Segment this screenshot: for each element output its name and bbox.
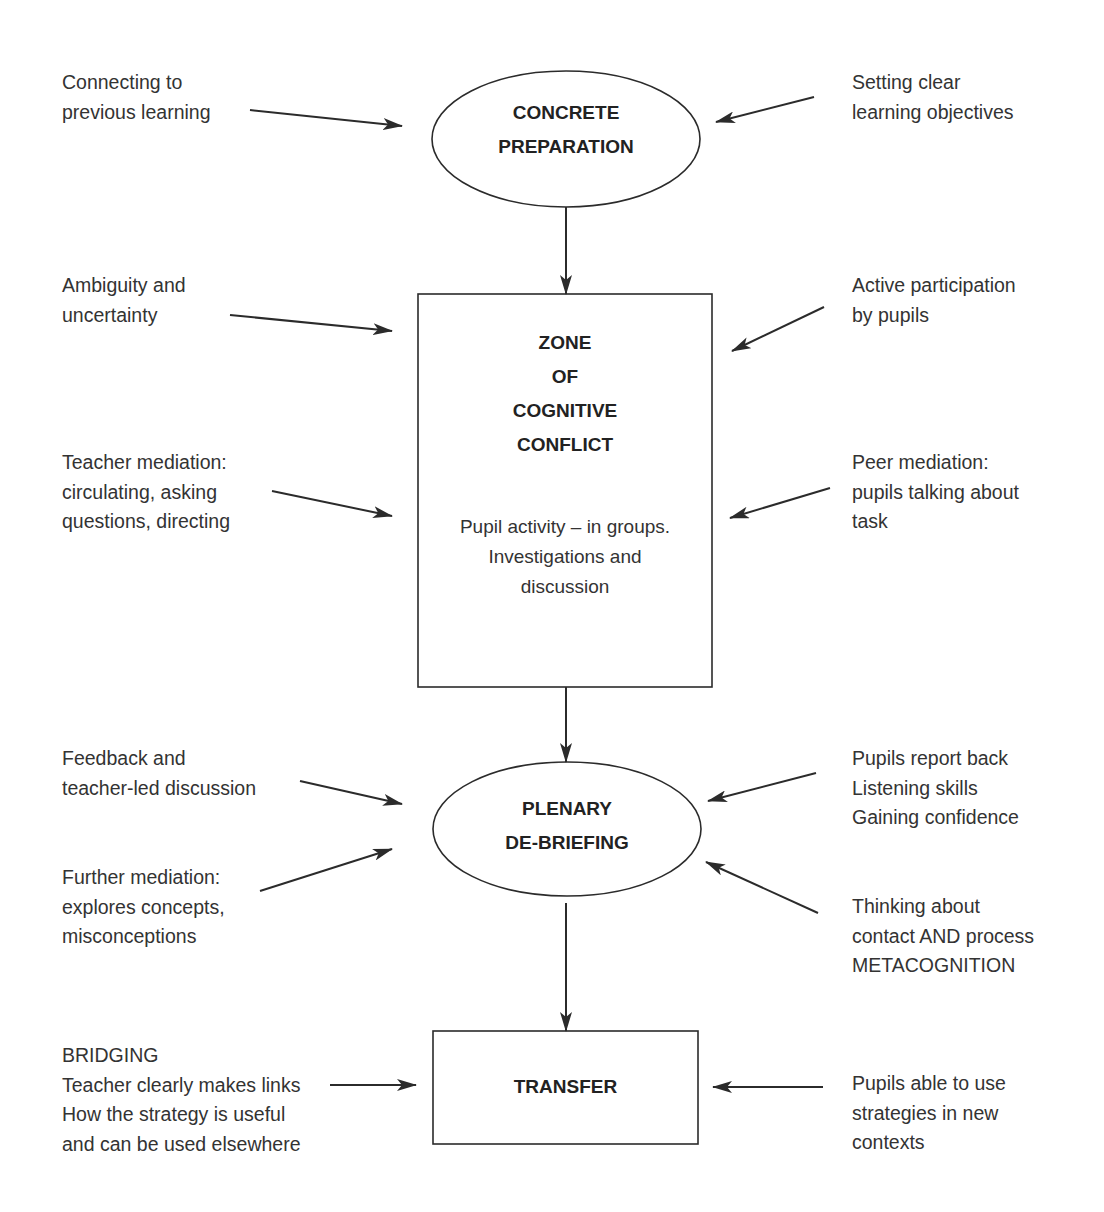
arrow-feedback (300, 781, 402, 804)
transfer-label: TRANSFER (433, 1070, 698, 1104)
note-line: learning objectives (852, 98, 1014, 128)
note-line: Connecting to (62, 68, 211, 98)
note-report-back: Pupils report back Listening skills Gain… (852, 744, 1019, 833)
zone-description-line-3: discussion (418, 572, 712, 602)
note-ambiguity: Ambiguity and uncertainty (62, 271, 186, 330)
note-line: explores concepts, (62, 893, 225, 923)
plenary-debriefing-label: PLENARY DE-BRIEFING (433, 792, 701, 860)
concrete-preparation-line-1: CONCRETE (432, 96, 700, 130)
note-line: and can be used elsewhere (62, 1130, 301, 1160)
note-line: Teacher mediation: (62, 448, 230, 478)
note-further-mediation: Further mediation: explores concepts, mi… (62, 863, 225, 952)
note-line: Setting clear (852, 68, 1014, 98)
note-feedback: Feedback and teacher-led discussion (62, 744, 256, 803)
arrow-further-mediation (260, 849, 392, 891)
note-line: Gaining confidence (852, 803, 1019, 833)
zone-title-line-2: OF (418, 360, 712, 394)
note-line: Pupils able to use (852, 1069, 1006, 1099)
concrete-preparation-line-2: PREPARATION (432, 130, 700, 164)
zone-title-line-1: ZONE (418, 326, 712, 360)
note-line: Peer mediation: (852, 448, 1019, 478)
note-line: Listening skills (852, 774, 1019, 804)
note-objectives: Setting clear learning objectives (852, 68, 1014, 127)
zone-title: ZONE OF COGNITIVE CONFLICT (418, 326, 712, 462)
note-peer-mediation: Peer mediation: pupils talking about tas… (852, 448, 1019, 537)
zone-description: Pupil activity – in groups. Investigatio… (418, 512, 712, 602)
note-line: BRIDGING (62, 1041, 301, 1071)
note-line: contact AND process (852, 922, 1034, 952)
note-line: misconceptions (62, 922, 225, 952)
note-line: uncertainty (62, 301, 186, 331)
note-line: pupils talking about (852, 478, 1019, 508)
arrow-objectives (716, 97, 814, 122)
arrow-peer-mediation (730, 488, 830, 518)
note-connecting: Connecting to previous learning (62, 68, 211, 127)
concrete-preparation-label: CONCRETE PREPARATION (432, 96, 700, 164)
note-line: METACOGNITION (852, 951, 1034, 981)
note-pupils-able: Pupils able to use strategies in new con… (852, 1069, 1006, 1158)
note-line: Feedback and (62, 744, 256, 774)
note-line: Ambiguity and (62, 271, 186, 301)
arrow-ambiguity (230, 315, 392, 331)
plenary-line-1: PLENARY (433, 792, 701, 826)
note-line: How the strategy is useful (62, 1100, 301, 1130)
note-line: previous learning (62, 98, 211, 128)
note-line: task (852, 507, 1019, 537)
arrow-connecting (250, 110, 402, 126)
note-line: by pupils (852, 301, 1016, 331)
plenary-line-2: DE-BRIEFING (433, 826, 701, 860)
zone-description-line-2: Investigations and (418, 542, 712, 572)
note-line: Teacher clearly makes links (62, 1071, 301, 1101)
note-line: Active participation (852, 271, 1016, 301)
note-bridging: BRIDGING Teacher clearly makes links How… (62, 1041, 301, 1159)
zone-title-line-3: COGNITIVE (418, 394, 712, 428)
note-line: questions, directing (62, 507, 230, 537)
note-line: circulating, asking (62, 478, 230, 508)
note-line: Further mediation: (62, 863, 225, 893)
note-thinking: Thinking about contact AND process METAC… (852, 892, 1034, 981)
zone-title-line-4: CONFLICT (418, 428, 712, 462)
arrow-teacher-mediation (272, 491, 392, 516)
zone-description-line-1: Pupil activity – in groups. (418, 512, 712, 542)
note-line: Thinking about (852, 892, 1034, 922)
note-participation: Active participation by pupils (852, 271, 1016, 330)
arrow-thinking (706, 862, 818, 913)
note-line: teacher-led discussion (62, 774, 256, 804)
note-line: contexts (852, 1128, 1006, 1158)
note-line: strategies in new (852, 1099, 1006, 1129)
note-teacher-mediation: Teacher mediation: circulating, asking q… (62, 448, 230, 537)
arrow-participation (732, 307, 824, 351)
transfer-line-1: TRANSFER (433, 1070, 698, 1104)
diagram-canvas (0, 0, 1104, 1212)
arrow-report-back (708, 773, 816, 801)
note-line: Pupils report back (852, 744, 1019, 774)
